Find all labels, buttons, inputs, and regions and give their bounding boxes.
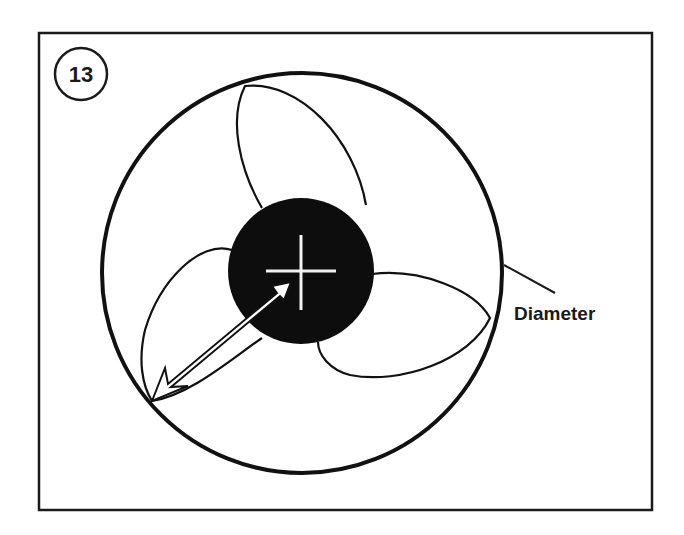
fan-diameter-diagram: 13 Diameter	[0, 0, 684, 535]
step-number-badge: 13	[55, 48, 107, 100]
diameter-leader-line	[504, 265, 555, 293]
diameter-label: Diameter	[514, 303, 596, 324]
step-number: 13	[69, 62, 93, 87]
fan-blade-top	[237, 86, 366, 208]
radius-measurement-arrow-icon	[152, 282, 291, 401]
